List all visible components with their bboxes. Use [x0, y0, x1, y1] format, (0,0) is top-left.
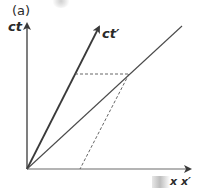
panel-label: (a) [12, 4, 30, 17]
spacetime-diagram [0, 0, 200, 188]
dashed-projection-slanted [80, 74, 129, 169]
ct-prime-axis-label: ct′ [102, 27, 119, 40]
x-axis-label: x x′ [170, 176, 191, 187]
ct-axis-label: ct [8, 20, 22, 33]
light-line [27, 26, 182, 169]
ct-prime-axis [27, 27, 99, 169]
